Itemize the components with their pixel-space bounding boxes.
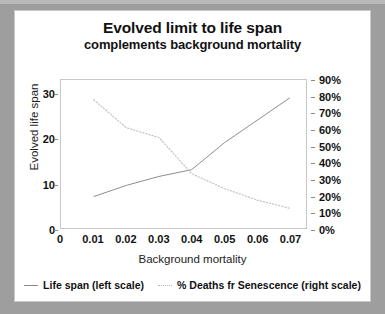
y2-tick-mark (311, 113, 315, 114)
x-tick-label: 0.05 (214, 233, 235, 245)
y2-tick-label: 20% (319, 191, 341, 203)
y2-tick-mark (311, 80, 315, 81)
legend-label-deaths-senescence: % Deaths fr Senescence (right scale) (177, 279, 361, 291)
x-tick-label: 0.06 (247, 233, 268, 245)
y-tick-mark (54, 185, 58, 186)
y2-tick-label: 50% (319, 141, 341, 153)
plot-area (60, 79, 307, 229)
legend-item-life-span: Life span (left scale) (24, 279, 144, 291)
x-axis-ticks: 00.010.020.030.040.050.060.07 (60, 233, 307, 249)
legend-item-deaths-senescence: % Deaths fr Senescence (right scale) (158, 279, 361, 291)
y2-tick-label: 30% (319, 174, 341, 186)
y-tick-mark (54, 139, 58, 140)
x-tick-label: 0.04 (181, 233, 202, 245)
x-tick-label: 0 (57, 233, 63, 245)
solid-line-icon (24, 285, 38, 286)
y-axis-right-ticks: 0%10%20%30%40%50%60%70%80%90% (311, 79, 361, 231)
x-tick-label: 0.01 (82, 233, 103, 245)
y2-tick-label: 40% (319, 157, 341, 169)
chart-legend: Life span (left scale) % Deaths fr Senes… (15, 279, 370, 291)
chart-title-block: Evolved limit to life span complements b… (15, 19, 370, 53)
y2-tick-mark (311, 130, 315, 131)
y2-tick-label: 80% (319, 91, 341, 103)
page-title: Evolved limit to life span (15, 19, 370, 37)
x-tick-label: 0.02 (115, 233, 136, 245)
x-tick-label: 0.03 (148, 233, 169, 245)
y2-tick-mark (311, 230, 315, 231)
page-subtitle: complements background mortality (15, 37, 370, 53)
y2-tick-label: 90% (319, 74, 341, 86)
y2-tick-mark (311, 180, 315, 181)
plot-svg (61, 80, 306, 228)
dotted-line-icon (158, 285, 172, 286)
y2-tick-mark (311, 163, 315, 164)
legend-label-life-span: Life span (left scale) (43, 279, 144, 291)
series-life-span-line (94, 98, 290, 197)
y2-tick-mark (311, 97, 315, 98)
y-tick-mark (54, 230, 58, 231)
y2-tick-label: 70% (319, 107, 341, 119)
chart-card: Evolved limit to life span complements b… (14, 10, 371, 302)
y2-tick-label: 60% (319, 124, 341, 136)
series-deaths-senescence-line (94, 100, 290, 209)
y2-tick-label: 10% (319, 207, 341, 219)
top-strip (0, 0, 385, 4)
x-axis-title: Background mortality (15, 253, 370, 265)
y2-tick-label: 0% (319, 224, 335, 236)
y2-tick-mark (311, 147, 315, 148)
screenshot-root: Evolved limit to life span complements b… (0, 0, 385, 314)
y-tick-mark (54, 94, 58, 95)
x-tick-label: 0.07 (280, 233, 301, 245)
y-axis-left-ticks: 0102030 (29, 79, 58, 231)
y2-tick-mark (311, 213, 315, 214)
y2-tick-mark (311, 197, 315, 198)
